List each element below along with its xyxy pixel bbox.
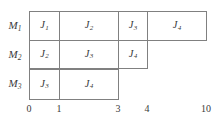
task-cell: J1	[29, 11, 60, 41]
axis-tick-label: 1	[49, 103, 69, 114]
row-label-m1: M1	[3, 20, 27, 33]
task-cell: J2	[29, 40, 60, 69]
task-label: J3	[30, 79, 59, 91]
task-label: J4	[119, 49, 147, 61]
axis-tick-label: 4	[137, 103, 157, 114]
task-label: J3	[60, 49, 118, 61]
task-label: J4	[60, 79, 118, 91]
schedule-gantt-figure: M1 M2 M3 J1 J2 J3 J4 J2 J3 J4 J3 J4 0 1 …	[0, 0, 215, 121]
task-label: J3	[119, 20, 147, 32]
task-cell: J4	[147, 11, 207, 41]
task-cell: J3	[59, 40, 119, 69]
task-label: J2	[60, 20, 118, 32]
row-label-m3: M3	[3, 78, 27, 91]
task-cell: J3	[118, 11, 148, 41]
task-cell: J2	[59, 11, 119, 41]
axis-tick-label: 10	[196, 103, 215, 114]
row-label-m2: M2	[3, 49, 27, 62]
task-label: J1	[30, 20, 59, 32]
task-cell: J4	[118, 40, 148, 69]
task-label: J4	[148, 20, 206, 32]
axis-tick-label: 3	[108, 103, 128, 114]
task-cell: J3	[29, 69, 60, 100]
axis-tick-label: 0	[19, 103, 39, 114]
task-cell: J4	[59, 69, 119, 100]
task-label: J2	[30, 49, 59, 61]
